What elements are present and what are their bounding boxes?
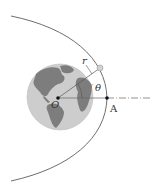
label-theta: θ (95, 82, 101, 93)
vertex-point-A (105, 96, 109, 100)
orbit-diagram: r θ O A (0, 0, 156, 190)
label-A: A (109, 103, 118, 114)
satellite (97, 65, 103, 71)
label-r: r (82, 55, 88, 66)
r-dimension-tick-arrow (90, 71, 92, 74)
label-O: O (51, 99, 59, 110)
